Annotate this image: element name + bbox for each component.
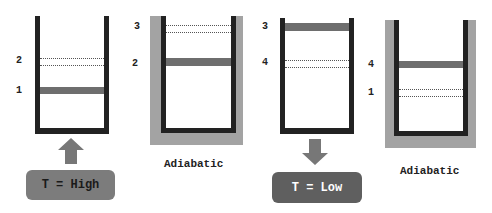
low-temperature-label: T = Low xyxy=(292,181,342,195)
piston xyxy=(166,58,231,66)
high-temperature-box: T = High xyxy=(26,170,115,200)
final-piston-bottom-dashed xyxy=(166,32,231,33)
state-label-2: 2 xyxy=(16,56,22,66)
state-label-1: 1 xyxy=(16,86,22,96)
state-label-1: 1 xyxy=(368,88,374,98)
final-piston-top-dashed xyxy=(285,60,349,61)
arrow-up-icon xyxy=(58,138,84,164)
arrow-down-icon xyxy=(302,139,328,165)
final-piston-bottom-dashed xyxy=(399,96,463,97)
cylinder-interior xyxy=(399,20,463,131)
final-piston-top-dashed xyxy=(166,25,231,26)
final-piston-bottom-dashed xyxy=(285,67,349,68)
piston xyxy=(285,23,349,31)
state-label-4: 4 xyxy=(368,60,374,70)
state-label-4: 4 xyxy=(262,58,268,68)
state-label-3: 3 xyxy=(262,22,268,32)
adiabatic-caption: Adiabatic xyxy=(400,165,459,177)
final-piston-top-dashed xyxy=(399,89,463,90)
final-piston-top-dashed xyxy=(40,58,104,59)
high-temperature-label: T = High xyxy=(42,178,100,192)
state-label-3: 3 xyxy=(134,22,140,32)
final-piston-bottom-dashed xyxy=(40,65,104,66)
cylinder-interior xyxy=(40,16,104,128)
adiabatic-caption: Adiabatic xyxy=(164,158,223,170)
low-temperature-box: T = Low xyxy=(272,172,362,203)
piston xyxy=(40,87,104,94)
state-label-2: 2 xyxy=(132,59,138,69)
piston xyxy=(399,61,463,68)
cylinder-interior xyxy=(285,18,349,128)
